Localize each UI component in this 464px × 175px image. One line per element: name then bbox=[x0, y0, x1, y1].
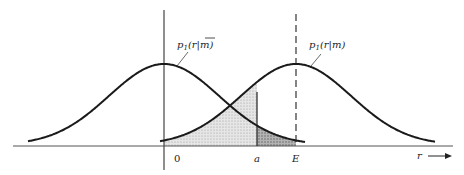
tick-label-zero: 0 bbox=[174, 153, 180, 164]
label-p1-r-given-mbar: p1(r|m) bbox=[177, 39, 213, 52]
tick-label-a: a bbox=[254, 153, 260, 164]
axis-label-r: r bbox=[417, 150, 423, 161]
label-p1-r-given-m: p1(r|m) bbox=[309, 39, 345, 52]
leader-line-left bbox=[177, 52, 188, 66]
leader-line-right bbox=[311, 54, 321, 66]
curve-p1-r-given-mbar bbox=[28, 64, 305, 142]
r-arrow-head bbox=[445, 153, 452, 159]
tick-label-E: E bbox=[291, 153, 300, 164]
gaussian-decision-diagram: p1(r|m) p1(r|m) 0 a E r bbox=[0, 0, 464, 175]
